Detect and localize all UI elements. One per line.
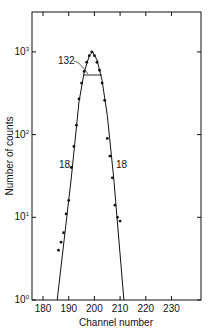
y-tick-labels: 100101102103 (15, 46, 30, 305)
x-tick-label: 200 (86, 303, 103, 314)
data-point (85, 61, 88, 64)
data-point (70, 166, 73, 169)
data-point (106, 137, 109, 140)
data-point (75, 124, 78, 127)
data-point (108, 155, 111, 158)
y-tick-label: 103 (15, 46, 30, 57)
x-tick-label: 220 (137, 303, 154, 314)
right-slope-label: 18 (116, 159, 128, 170)
chart: 100101102103 180190200210220230 132 18 1… (0, 0, 209, 334)
y-tick-label: 101 (15, 211, 30, 222)
data-point (93, 54, 96, 57)
y-axis-label: Number of counts (4, 117, 15, 196)
x-tick-label: 210 (112, 303, 129, 314)
data-point (60, 241, 63, 244)
data-point (114, 204, 117, 207)
data-point (119, 220, 122, 223)
fit-curve (57, 52, 124, 300)
x-axis-label: Channel number (79, 317, 154, 328)
fwhm-label: 132 (58, 55, 75, 66)
data-point (62, 231, 65, 234)
data-point (80, 82, 83, 85)
x-tick-labels: 180190200210220230 (35, 303, 181, 314)
data-point (98, 69, 101, 72)
x-tick-label: 190 (60, 303, 77, 314)
data-point (103, 99, 106, 102)
x-tick-label: 230 (163, 303, 180, 314)
data-point (101, 82, 104, 85)
data-point (96, 61, 99, 64)
data-point (88, 54, 91, 57)
data-point (90, 51, 93, 54)
data-point (111, 176, 114, 179)
data-point (67, 199, 70, 202)
data-point (72, 145, 75, 148)
data-point (65, 212, 68, 215)
data-point (116, 216, 119, 219)
x-tick-label: 180 (35, 303, 52, 314)
y-tick-label: 102 (15, 129, 30, 140)
data-point (57, 249, 60, 252)
left-slope-label: 18 (59, 159, 71, 170)
y-tick-label: 100 (15, 294, 30, 305)
data-point (78, 98, 81, 101)
